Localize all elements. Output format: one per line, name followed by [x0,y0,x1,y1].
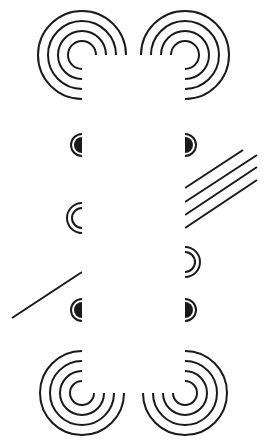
half-disc-right-lower-fill [185,302,193,318]
white-center-band [82,57,185,393]
diagonal-line-3 [185,167,257,215]
line-art-illustration [0,0,267,447]
double-arc-left-0 [72,208,82,228]
half-disc-right-upper-fill [185,137,193,153]
half-disc-left-upper-fill [74,137,82,153]
half-disc-left-lower-fill [74,302,82,318]
diagonal-line-2 [185,155,257,202]
diagonal-line-4 [185,180,257,228]
double-arc-right-0 [185,252,195,272]
